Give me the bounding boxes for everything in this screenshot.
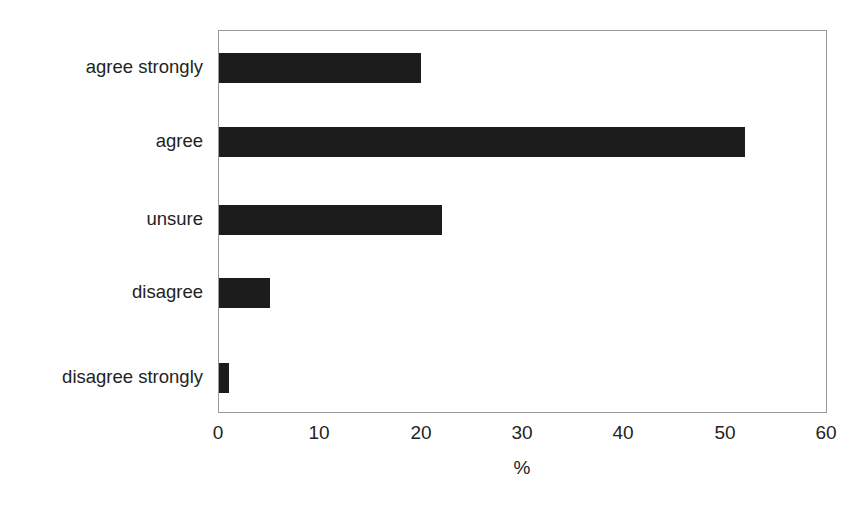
x-axis-tick-label: 10 xyxy=(308,421,329,445)
y-axis-tick-label: disagree xyxy=(0,282,203,302)
bar-disagree xyxy=(219,278,270,308)
x-axis-tick-label: 20 xyxy=(410,421,431,445)
x-axis-tick-label: 30 xyxy=(511,421,532,445)
x-axis-tick-label: 0 xyxy=(213,421,224,445)
bar-agree xyxy=(219,127,745,157)
x-axis-tick-label: 60 xyxy=(815,421,836,445)
plot-area xyxy=(218,30,827,413)
x-axis-tick-label: 40 xyxy=(612,421,633,445)
y-axis-tick-label: disagree strongly xyxy=(0,367,203,387)
y-axis-tick-label: agree strongly xyxy=(0,57,203,77)
x-axis-labels: 0 10 20 30 40 50 60 xyxy=(0,421,865,447)
bar-agree-strongly xyxy=(219,53,421,83)
x-axis-tick-label: 50 xyxy=(714,421,735,445)
y-axis-tick-label: unsure xyxy=(0,209,203,229)
y-axis-tick-label: agree xyxy=(0,131,203,151)
bar-chart: agree strongly agree unsure disagree dis… xyxy=(0,0,865,505)
bar-disagree-strongly xyxy=(219,363,229,393)
x-axis-title: % xyxy=(514,456,531,480)
y-axis-labels: agree strongly agree unsure disagree dis… xyxy=(0,30,203,413)
bar-unsure xyxy=(219,205,442,235)
